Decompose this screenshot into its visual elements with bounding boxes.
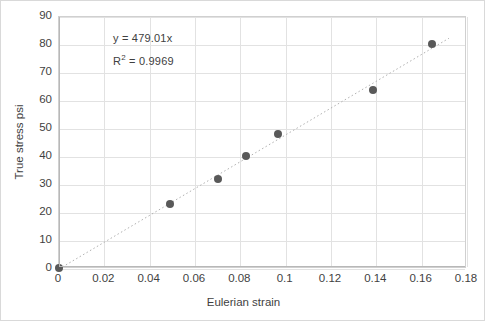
x-axis-tick-label: 0.08 (228, 273, 250, 285)
x-axis-tick-label: 0.18 (455, 273, 477, 285)
x-axis-tick-label: 0.02 (92, 273, 114, 285)
x-axis-tick-label: 0.12 (319, 273, 341, 285)
x-axis-title: Eulerian strain (1, 296, 485, 308)
x-axis-tick-label: 0.06 (183, 273, 205, 285)
x-axis-tick-labels: 00.020.040.060.080.10.120.140.160.18 (1, 1, 484, 320)
chart-figure: True stress psi 0102030405060708090 y = … (0, 0, 485, 321)
x-axis-tick-label: 0.04 (137, 273, 159, 285)
x-axis-tick-label: 0.16 (409, 273, 431, 285)
x-axis-tick-label: 0.14 (364, 273, 386, 285)
x-axis-tick-label: 0.1 (277, 273, 293, 285)
x-axis-tick-label: 0 (55, 273, 61, 285)
